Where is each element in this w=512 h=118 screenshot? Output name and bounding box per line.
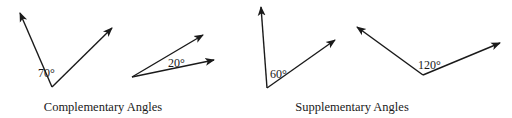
angle-label-20: 20° xyxy=(168,56,185,70)
ray-left xyxy=(357,27,423,75)
complementary-angles-group: 70° 20° Complementary Angles xyxy=(20,13,214,114)
angle-20: 20° xyxy=(132,35,214,77)
angle-label-60: 60° xyxy=(270,67,287,81)
ray-right xyxy=(52,28,112,87)
angle-70: 70° xyxy=(20,13,112,87)
caption-supplementary: Supplementary Angles xyxy=(295,100,409,114)
angle-120: 120° xyxy=(357,27,500,75)
angle-60: 60° xyxy=(261,7,335,88)
supplementary-angles-group: 60° 120° Supplementary Angles xyxy=(261,7,500,114)
caption-complementary: Complementary Angles xyxy=(44,100,163,114)
angle-label-120: 120° xyxy=(418,58,441,72)
ray-up xyxy=(261,7,267,88)
angles-diagram: 70° 20° Complementary Angles 60° 120° Su… xyxy=(0,0,512,118)
angle-label-70: 70° xyxy=(38,66,55,80)
